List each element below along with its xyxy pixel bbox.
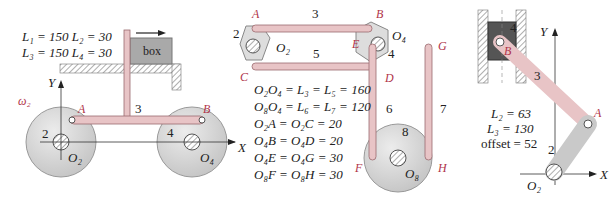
svg-text:X: X xyxy=(599,167,609,182)
svg-text:O₂: O₂ xyxy=(276,40,290,55)
svg-text:7: 7 xyxy=(440,101,447,116)
fig2-equations: O₂O₄ = L₃ = L₅ = 160 O₈O₄ = L₆ = L₇ = 12… xyxy=(254,82,371,182)
svg-text:O₈O₄ = L₆ = L₇ = 120: O₈O₄ = L₆ = L₇ = 120 xyxy=(254,99,371,114)
link-2 xyxy=(554,124,588,172)
link-5 xyxy=(252,63,372,70)
svg-text:O₂: O₂ xyxy=(68,150,82,165)
svg-text:O₂: O₂ xyxy=(527,178,541,193)
svg-text:X: X xyxy=(237,140,247,155)
svg-text:A: A xyxy=(77,102,86,116)
svg-text:Y: Y xyxy=(540,24,549,39)
svg-text:2: 2 xyxy=(42,126,49,141)
svg-text:2: 2 xyxy=(233,26,240,41)
svg-text:8: 8 xyxy=(402,124,409,139)
link-3 xyxy=(70,116,204,124)
svg-text:O₈F = O₈H = 30: O₈F = O₈H = 30 xyxy=(254,167,343,182)
svg-text:4: 4 xyxy=(167,125,174,140)
svg-text:O₂O₄ = L₃ = L₅ = 160: O₂O₄ = L₃ = L₅ = 160 xyxy=(254,82,371,97)
svg-text:3: 3 xyxy=(534,68,541,83)
svg-text:F: F xyxy=(354,161,363,175)
svg-text:E: E xyxy=(351,37,360,51)
svg-text:B: B xyxy=(203,102,211,116)
svg-text:O₄B = O₄D = 20: O₄B = O₄D = 20 xyxy=(254,133,343,148)
svg-text:Y: Y xyxy=(48,75,57,90)
svg-text:O₂A = O₂C = 20: O₂A = O₂C = 20 xyxy=(254,116,342,131)
ground-guide xyxy=(60,64,180,73)
link-7 xyxy=(425,44,432,160)
omega-label: ω₂ xyxy=(18,94,31,108)
link-3-stem xyxy=(124,30,130,118)
svg-text:O₄: O₄ xyxy=(200,150,214,165)
svg-text:O₄: O₄ xyxy=(392,28,406,43)
svg-text:L₂ = 63: L₂ = 63 xyxy=(490,106,532,121)
guide-left xyxy=(478,10,488,83)
fig1-params-line2: L₃ = 150 L₄ = 30 xyxy=(21,45,112,60)
svg-text:H: H xyxy=(437,161,448,175)
svg-text:3: 3 xyxy=(312,6,319,21)
svg-text:O₈: O₈ xyxy=(405,166,419,181)
arrow-right-icon xyxy=(158,30,166,36)
mechanism-figures: L₁ = 150 L₂ = 30 L₃ = 150 L₄ = 30 box Y … xyxy=(0,0,612,211)
svg-text:4: 4 xyxy=(388,46,395,61)
svg-text:5: 5 xyxy=(313,46,320,61)
figure-3-slider-crank: B A 2 3 4 O₂ Y X L₂ = 63 L₃ = 130 offset… xyxy=(478,10,609,193)
figure-1-slider-linkage: L₁ = 150 L₂ = 30 L₃ = 150 L₄ = 30 box Y … xyxy=(18,29,247,177)
svg-text:B: B xyxy=(504,44,512,58)
svg-text:offset = 52: offset = 52 xyxy=(481,136,537,151)
svg-text:6: 6 xyxy=(386,101,393,116)
svg-text:C: C xyxy=(240,70,249,84)
svg-text:L₃ = 130: L₃ = 130 xyxy=(486,121,534,136)
svg-text:3: 3 xyxy=(135,101,142,116)
box-label: box xyxy=(143,44,161,58)
diagram-canvas: L₁ = 150 L₂ = 30 L₃ = 150 L₄ = 30 box Y … xyxy=(0,0,612,211)
link-3 xyxy=(252,25,372,32)
svg-text:D: D xyxy=(384,71,394,85)
svg-text:A: A xyxy=(251,7,260,21)
figure-2-parallel-linkage: A B C D E F G H 2 3 5 4 6 7 8 O₂ O₄ O₈ O… xyxy=(233,6,448,192)
svg-text:O₄E = O₄G = 30: O₄E = O₄G = 30 xyxy=(254,150,343,165)
svg-text:A: A xyxy=(593,106,602,120)
svg-text:G: G xyxy=(438,39,447,53)
svg-text:B: B xyxy=(376,7,384,21)
ground-guide-end xyxy=(172,64,181,90)
svg-text:2: 2 xyxy=(548,142,555,157)
svg-text:4: 4 xyxy=(510,20,517,35)
fig1-params-line1: L₁ = 150 L₂ = 30 xyxy=(21,29,112,44)
